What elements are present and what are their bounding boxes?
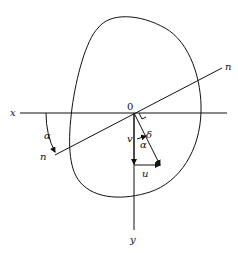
cross-section-diagram: x y 0 n n α α δ v u [0,0,238,253]
y-axis-label: y [129,234,136,245]
origin-label: 0 [127,101,133,112]
alpha-left-label: α [44,130,51,141]
neutral-axis-line [55,68,222,155]
delta-label: δ [146,129,152,140]
alpha-vector-label: α [140,139,147,150]
x-axis-label: x [10,107,16,118]
cross-section-outline [70,17,201,197]
right-angle-mark [139,113,146,119]
neutral-axis-right-label: n [225,61,231,72]
v-label: v [127,133,133,144]
u-label: u [142,168,148,179]
neutral-axis-left-label: n [40,151,46,162]
